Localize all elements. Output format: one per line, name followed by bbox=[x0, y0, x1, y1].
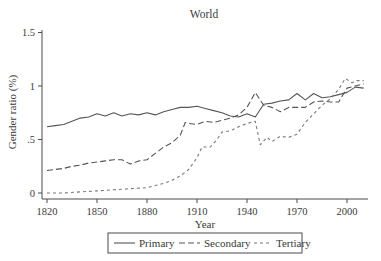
y-tick-label: 1.5 bbox=[22, 27, 35, 38]
x-axis-ticks: 1820185018801910194019702000 bbox=[37, 199, 358, 217]
x-tick-label: 1910 bbox=[187, 206, 208, 217]
y-tick-label: 0 bbox=[30, 188, 35, 199]
y-tick-label: .5 bbox=[27, 134, 35, 145]
x-tick-label: 1850 bbox=[87, 206, 108, 217]
x-tick-label: 1820 bbox=[37, 206, 58, 217]
line-chart: World 0.511.5 18201850188019101940197020… bbox=[0, 0, 381, 261]
x-tick-label: 2000 bbox=[337, 206, 358, 217]
series-line-primary bbox=[47, 87, 364, 127]
chart-title: World bbox=[190, 8, 219, 20]
legend-label-tertiary: Tertiary bbox=[276, 237, 311, 249]
y-tick-label: 1 bbox=[30, 81, 35, 92]
y-axis-title: Gender ratio (%) bbox=[6, 74, 19, 149]
x-axis: 1820185018801910194019702000 bbox=[37, 199, 369, 217]
legend: Primary Secondary Tertiary bbox=[108, 233, 311, 253]
legend-label-secondary: Secondary bbox=[204, 237, 251, 249]
x-axis-title: Year bbox=[195, 218, 216, 230]
x-tick-label: 1970 bbox=[287, 206, 308, 217]
y-axis-ticks: 0.511.5 bbox=[22, 27, 42, 199]
series-line-secondary bbox=[47, 84, 364, 171]
series-line-tertiary bbox=[47, 79, 364, 194]
x-tick-label: 1880 bbox=[137, 206, 158, 217]
data-series bbox=[47, 79, 364, 194]
chart-container: World 0.511.5 18201850188019101940197020… bbox=[0, 0, 381, 261]
x-tick-label: 1940 bbox=[237, 206, 258, 217]
y-axis: 0.511.5 bbox=[22, 27, 42, 199]
legend-label-primary: Primary bbox=[139, 237, 175, 249]
